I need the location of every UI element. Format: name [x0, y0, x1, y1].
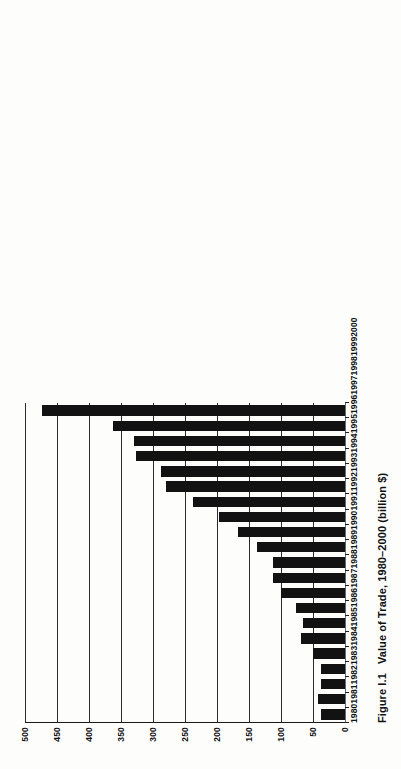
- bar-1984: [313, 649, 345, 659]
- bar-slot-1982: [25, 676, 345, 691]
- value-tick-label-0: 0: [340, 727, 350, 732]
- bar-slot-1985: [25, 631, 345, 646]
- bar-1980: [321, 709, 345, 719]
- bar-slot-1998: [25, 433, 345, 448]
- bar-slot-1995: [25, 479, 345, 494]
- bar-slot-1990: [25, 555, 345, 570]
- bar-1998: [134, 436, 345, 446]
- bar-1999: [113, 421, 345, 431]
- value-tick-label-300: 300: [148, 727, 158, 742]
- bar-slot-1993: [25, 509, 345, 524]
- bar-slot-1991: [25, 540, 345, 555]
- bar-1983: [321, 664, 345, 674]
- bar-slot-1999: [25, 418, 345, 433]
- bar-1986: [303, 618, 345, 628]
- figure-caption-text: Value of Trade, 1980–2000 (billion $): [376, 473, 388, 664]
- value-tick-label-450: 450: [52, 727, 62, 742]
- category-label-1994: 1994: [349, 433, 383, 452]
- category-label-1996: 1996: [349, 395, 383, 414]
- rotated-page-wrapper: 050100150200250300350400450500 198019811…: [0, 0, 401, 769]
- value-tick-label-350: 350: [116, 727, 126, 742]
- value-tick-label-250: 250: [180, 727, 190, 742]
- category-label-1999: 1999: [349, 337, 383, 356]
- bar-1982: [321, 679, 345, 689]
- bar-1995: [166, 481, 345, 491]
- figure-caption: Figure I.1Value of Trade, 1980–2000 (bil…: [376, 473, 388, 723]
- bar-1989: [273, 573, 345, 583]
- category-label-1998: 1998: [349, 356, 383, 375]
- bar-1981: [318, 694, 345, 704]
- value-tick-label-400: 400: [84, 727, 94, 742]
- bar-1985: [301, 633, 345, 643]
- bar-slot-1983: [25, 661, 345, 676]
- bar-slot-1996: [25, 464, 345, 479]
- bar-slot-1994: [25, 494, 345, 509]
- bar-slot-1986: [25, 616, 345, 631]
- bar-slot-1989: [25, 570, 345, 585]
- bar-1990: [273, 557, 345, 567]
- bar-slot-1987: [25, 601, 345, 616]
- figure-caption-number: Figure I.1: [376, 673, 388, 723]
- bar-1991: [257, 542, 345, 552]
- bar-slot-1984: [25, 646, 345, 661]
- bar-slot-1981: [25, 692, 345, 707]
- bar-series: [25, 403, 345, 722]
- bar-1997: [136, 451, 345, 461]
- bar-1992: [238, 527, 345, 537]
- bar-slot-1980: [25, 707, 345, 722]
- bar-slot-1988: [25, 585, 345, 600]
- value-tick-label-150: 150: [244, 727, 254, 742]
- bar-1994: [193, 497, 345, 507]
- value-tick-label-500: 500: [20, 727, 30, 742]
- figure-container: 050100150200250300350400450500 198019811…: [0, 0, 401, 769]
- value-tick-label-100: 100: [276, 727, 286, 742]
- category-label-2000: 2000: [349, 317, 383, 336]
- bar-1987: [296, 603, 345, 613]
- bar-slot-1997: [25, 449, 345, 464]
- category-label-1997: 1997: [349, 375, 383, 394]
- category-label-1993: 1993: [349, 453, 383, 472]
- value-tick-label-200: 200: [212, 727, 222, 742]
- bar-1996: [161, 466, 345, 476]
- bar-1988: [281, 588, 345, 598]
- bar-slot-2000: [25, 403, 345, 418]
- bar-slot-1992: [25, 525, 345, 540]
- value-tick-label-50: 50: [308, 727, 318, 737]
- plot-area: [25, 403, 345, 723]
- category-axis-line: [345, 402, 346, 723]
- bar-1993: [219, 512, 345, 522]
- bar-2000: [42, 406, 345, 416]
- category-label-1995: 1995: [349, 414, 383, 433]
